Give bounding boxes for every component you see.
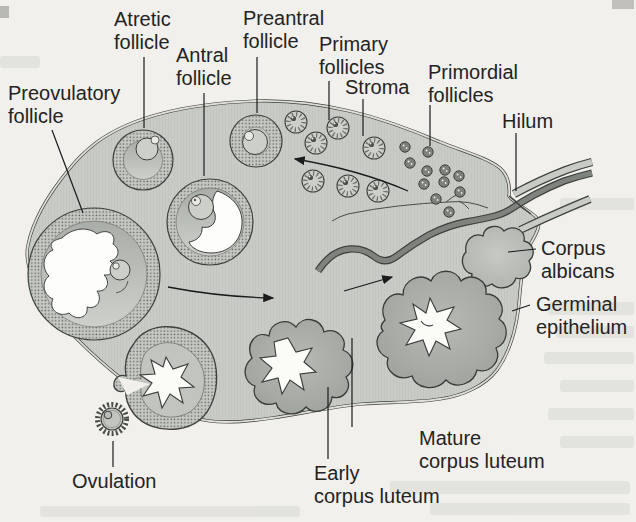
label-corpus-albicans: Corpus albicans xyxy=(541,237,614,283)
primordial-follicle xyxy=(454,171,464,181)
label-primary-follicles: Primary follicles xyxy=(319,33,388,79)
label-line: Mature xyxy=(419,427,545,450)
label-germinal-epithelium: Germinal epithelium xyxy=(536,293,627,339)
primordial-follicle xyxy=(431,194,441,204)
primordial-follicle xyxy=(423,147,433,157)
primordial-follicle xyxy=(455,187,465,197)
label-line: follicle xyxy=(176,67,232,90)
primordial-follicle xyxy=(405,158,415,168)
label-stroma: Stroma xyxy=(345,76,409,99)
preantral-follicle xyxy=(230,115,282,167)
label-line: Preovulatory xyxy=(8,82,120,105)
preovulatory-follicle xyxy=(28,208,160,340)
primordial-follicle xyxy=(444,207,454,217)
primordial-follicle xyxy=(440,165,450,175)
label-line: Atretic xyxy=(114,8,171,31)
primordial-follicle xyxy=(400,142,410,152)
label-line: follicle xyxy=(8,105,120,128)
figure-ovary-diagram: Preovulatory follicle Atretic follicle A… xyxy=(0,0,636,522)
label-line: Germinal xyxy=(536,293,627,316)
label-line: corpus luteum xyxy=(419,450,545,473)
primary-follicle xyxy=(305,132,327,154)
atretic-follicle xyxy=(113,130,173,190)
label-line: follicle xyxy=(243,30,324,53)
label-ovulation: Ovulation xyxy=(72,470,157,493)
label-line: follicle xyxy=(114,31,171,54)
label-line: Hilum xyxy=(502,110,553,133)
primordial-follicle xyxy=(422,166,432,176)
primordial-follicle xyxy=(419,179,429,189)
label-preovulatory-follicle: Preovulatory follicle xyxy=(8,82,120,128)
primary-follicle xyxy=(367,180,389,202)
label-line: epithelium xyxy=(536,316,627,339)
label-preantral-follicle: Preantral follicle xyxy=(243,7,324,53)
primordial-follicle xyxy=(439,177,449,187)
primary-follicle xyxy=(363,137,385,159)
label-line: Ovulation xyxy=(72,470,157,493)
antral-follicle xyxy=(167,179,253,265)
primary-follicle xyxy=(302,170,324,192)
label-line: Antral xyxy=(176,44,232,67)
primary-follicle xyxy=(285,111,307,133)
label-line: corpus luteum xyxy=(314,485,440,508)
primary-follicle xyxy=(337,175,359,197)
label-line: Primordial xyxy=(428,61,518,84)
label-line: follicles xyxy=(428,84,518,107)
label-line: Stroma xyxy=(345,76,409,99)
label-antral-follicle: Antral follicle xyxy=(176,44,232,90)
label-line: Corpus xyxy=(541,237,614,260)
label-primordial-follicles: Primordial follicles xyxy=(428,61,518,107)
label-hilum: Hilum xyxy=(502,110,553,133)
label-line: Preantral xyxy=(243,7,324,30)
label-mature-corpus-luteum: Mature corpus luteum xyxy=(419,427,545,473)
label-atretic-follicle: Atretic follicle xyxy=(114,8,171,54)
label-line: Primary xyxy=(319,33,388,56)
label-line: albicans xyxy=(541,260,614,283)
primary-follicle xyxy=(327,117,349,139)
